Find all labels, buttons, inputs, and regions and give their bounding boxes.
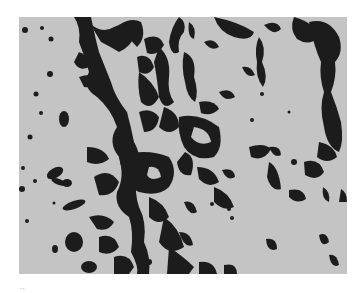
- micrograph-image: [19, 17, 347, 274]
- bacteria-clusters: [19, 17, 347, 274]
- panel-label: ..: [20, 283, 26, 291]
